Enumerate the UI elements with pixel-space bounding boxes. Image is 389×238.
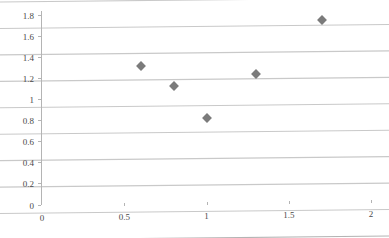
y-axis-tick-label: 0.2 (2, 180, 34, 189)
gridline (0, 183, 389, 187)
y-axis-tick-label: 1.4 (2, 54, 34, 63)
y-axis-tick (38, 36, 41, 37)
y-axis-tick-label: 0.8 (2, 117, 34, 126)
y-axis-tick-label: 0 (2, 202, 34, 211)
x-axis-line (0, 236, 389, 238)
y-axis-tick-label: 1.8 (2, 12, 34, 21)
gridline (0, 104, 389, 108)
gridline (0, 157, 389, 161)
y-axis-tick (38, 57, 41, 58)
y-axis-tick (38, 183, 41, 184)
y-axis-tick (38, 15, 41, 16)
y-axis-tick-label: 1.2 (2, 75, 34, 84)
y-axis-line (41, 11, 42, 205)
x-axis-tick (371, 200, 372, 203)
gridline (0, 77, 389, 81)
gridline (0, 130, 389, 134)
gridline (0, 51, 389, 55)
x-axis-tick-label: 1.5 (274, 211, 304, 220)
x-axis-tick (124, 203, 125, 206)
y-axis-tick (38, 205, 41, 206)
y-axis-tick-label: 0.4 (2, 159, 34, 168)
scatter-chart: 00.20.40.60.811.21.41.61.8 00.511.52 (0, 0, 389, 238)
x-axis-tick-label: 2 (356, 210, 386, 219)
gridline (0, 0, 389, 2)
y-axis-tick (38, 162, 41, 163)
y-axis-tick (38, 78, 41, 79)
y-axis-tick-label: 1.6 (2, 33, 34, 42)
y-axis-tick-label: 0.6 (2, 138, 34, 147)
gridline (0, 24, 389, 28)
y-axis-tick (38, 141, 41, 142)
x-axis-tick-label: 0.5 (109, 213, 139, 222)
y-axis-tick (38, 120, 41, 121)
x-axis-tick (207, 202, 208, 205)
x-axis-tick (289, 201, 290, 204)
x-axis-tick-label: 1 (192, 212, 222, 221)
y-axis-tick-label: 1 (2, 96, 34, 105)
x-axis-tick-label: 0 (27, 214, 57, 223)
gridlines (0, 0, 389, 238)
y-axis-tick (38, 99, 41, 100)
